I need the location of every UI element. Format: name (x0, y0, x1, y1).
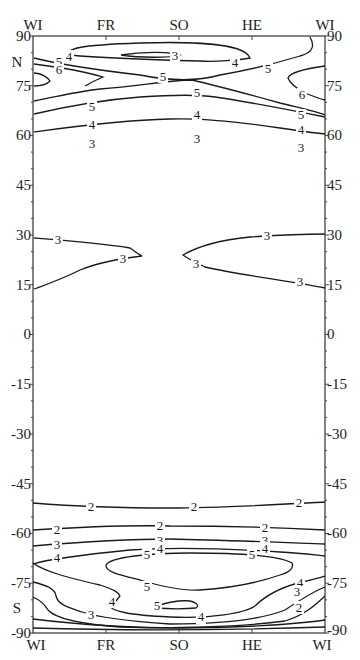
lat-label: -30 (11, 426, 31, 442)
svg-text:6: 6 (299, 87, 306, 102)
month-label: HE (242, 17, 262, 33)
month-label: SO (169, 17, 188, 33)
svg-text:4: 4 (89, 117, 96, 132)
lat-label: 90 (327, 28, 342, 44)
svg-text:4: 4 (262, 541, 269, 556)
lat-label: 60 (327, 127, 342, 143)
svg-text:3: 3 (172, 48, 179, 63)
top-month-axis: WI FR SO HE WI (23, 17, 334, 33)
lat-label: -15 (11, 376, 31, 392)
lat-label: 15 (16, 277, 31, 293)
svg-text:3: 3 (120, 251, 127, 266)
contour-labels: 3 4 4 5 5 5 6 6 5 5 5 4 4 4 3 3 3 3 3 3 … (52, 48, 307, 624)
lat-label: 30 (16, 227, 31, 243)
lat-label: -15 (327, 376, 347, 392)
north-label: N (12, 54, 23, 70)
lat-label: 75 (327, 78, 342, 94)
svg-text:5: 5 (89, 99, 96, 114)
lat-label: -90 (327, 622, 347, 638)
svg-text:3: 3 (194, 131, 201, 146)
contour-chart: WI FR SO HE WI WI FR SO HE WI 90 75 60 4… (0, 0, 360, 660)
svg-text:5: 5 (154, 598, 161, 613)
svg-text:5: 5 (160, 69, 167, 84)
svg-text:4: 4 (54, 550, 61, 565)
lat-label: -45 (11, 476, 31, 492)
svg-text:5: 5 (265, 61, 272, 76)
svg-text:2: 2 (88, 499, 95, 514)
month-label: FR (97, 17, 115, 33)
lat-label: 15 (327, 277, 342, 293)
month-label: FR (97, 637, 115, 653)
svg-text:2: 2 (157, 518, 164, 533)
plot-frame (33, 36, 325, 633)
svg-text:3: 3 (89, 136, 96, 151)
month-label: WI (312, 637, 331, 653)
month-label: SO (169, 637, 188, 653)
lat-label: -90 (11, 625, 31, 641)
lat-label: -75 (327, 575, 347, 591)
lat-label: 45 (16, 177, 31, 193)
bottom-month-axis: WI FR SO HE WI (26, 637, 331, 653)
svg-text:2: 2 (296, 495, 303, 510)
svg-text:4: 4 (198, 609, 205, 624)
right-latitude-axis: 90 75 60 45 30 15 0 -15 -30 -45 -60 -75 … (327, 28, 347, 638)
lat-label: -45 (327, 476, 347, 492)
lat-label: -60 (11, 525, 31, 541)
svg-text:2: 2 (54, 522, 61, 537)
svg-text:4: 4 (157, 541, 164, 556)
svg-text:5: 5 (144, 579, 151, 594)
svg-text:3: 3 (55, 232, 62, 247)
lat-label: 45 (327, 177, 342, 193)
svg-text:3: 3 (264, 228, 271, 243)
lat-label: 90 (16, 28, 31, 44)
svg-text:5: 5 (298, 107, 305, 122)
svg-text:2: 2 (191, 499, 198, 514)
month-label: HE (242, 637, 262, 653)
svg-text:4: 4 (66, 49, 73, 64)
south-contours (33, 502, 325, 630)
svg-text:2: 2 (296, 600, 303, 615)
svg-text:3: 3 (193, 256, 200, 271)
svg-text:3: 3 (297, 274, 304, 289)
svg-text:3: 3 (88, 607, 95, 622)
svg-text:6: 6 (56, 62, 63, 77)
left-latitude-axis: 90 75 60 45 30 15 0 -15 -30 -45 -60 -75 … (11, 28, 31, 641)
month-ticks (106, 36, 252, 633)
svg-text:5: 5 (249, 547, 256, 562)
svg-text:3: 3 (294, 584, 301, 599)
svg-text:4: 4 (232, 55, 239, 70)
lat-label: 75 (16, 78, 31, 94)
lat-label: -75 (11, 575, 31, 591)
lat-label: 30 (327, 227, 342, 243)
south-label: S (13, 600, 21, 616)
tropical-contours (34, 234, 325, 289)
lat-label: 60 (16, 127, 31, 143)
svg-text:5: 5 (194, 85, 201, 100)
svg-text:4: 4 (194, 107, 201, 122)
svg-text:4: 4 (298, 122, 305, 137)
lat-label: -60 (327, 525, 347, 541)
svg-text:5: 5 (144, 547, 151, 562)
svg-text:4: 4 (109, 594, 116, 609)
lat-label: -30 (327, 426, 347, 442)
svg-text:3: 3 (298, 140, 305, 155)
